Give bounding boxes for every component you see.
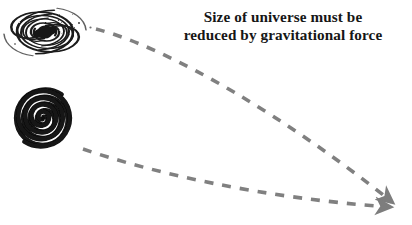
upper-contraction-arrow — [96, 29, 392, 202]
caption-line-2: reduced by gravitational force — [176, 26, 390, 44]
small-dense-spiral-galaxy-icon — [16, 90, 70, 147]
caption-line-1: Size of universe must be — [176, 8, 390, 26]
caption-text: Size of universe must be reduced by grav… — [176, 8, 390, 44]
figure-canvas: Size of universe must be reduced by grav… — [0, 0, 412, 225]
lower-contraction-arrow — [83, 149, 390, 207]
large-open-spiral-galaxy-icon — [4, 8, 86, 56]
ink-speck — [89, 26, 91, 28]
